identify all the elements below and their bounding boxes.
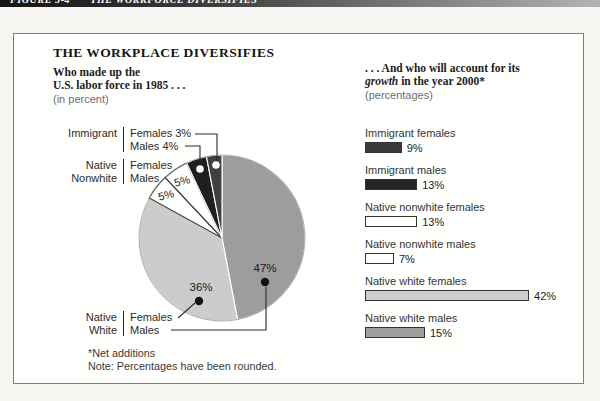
figure-banner-title: THE WORKFORCE DIVERSIFIES	[90, 0, 257, 5]
pie-group-name: Native White	[57, 311, 123, 336]
bar-row: Native white females42%	[365, 275, 580, 301]
pie-row-immigrant-females: Females 3%	[130, 127, 191, 140]
pie-label-group-immigrant: Immigrant Females 3% Males 4%	[57, 127, 191, 152]
figure-banner: FIGURE 5-4THE WORKFORCE DIVERSIFIES	[0, 0, 600, 7]
pie-row-nonwhite-males: Males	[130, 172, 172, 185]
bar-row: Native nonwhite males7%	[365, 238, 580, 264]
figure-footnotes: *Net additions Note: Percentages have be…	[88, 347, 276, 372]
figure-banner-text: FIGURE 5-4THE WORKFORCE DIVERSIFIES	[10, 0, 257, 7]
bar-header-line2: growth in the year 2000*	[365, 75, 520, 88]
pie-header-line2: U.S. labor force in 1985 . . .	[53, 79, 185, 92]
bar-value: 13%	[422, 216, 444, 228]
bar-value: 42%	[534, 290, 556, 302]
pie-group-rows: Females Males	[123, 311, 172, 336]
pie-group-rows: Females 3% Males 4%	[123, 127, 191, 152]
pie-value-native-white-males: 47%	[253, 262, 276, 274]
bar-line: 7%	[365, 253, 580, 264]
figure-title: THE WORKPLACE DIVERSIFIES	[53, 45, 274, 61]
bar-line: 9%	[365, 142, 580, 153]
pie-group-name-line1: Native	[57, 159, 117, 172]
bar-header-growth-italic: growth	[365, 75, 398, 87]
bar	[365, 253, 394, 264]
pie-label-group-native-nonwhite: Native Nonwhite Females Males	[57, 159, 172, 184]
pie-row-nonwhite-females: Females	[130, 159, 172, 172]
bar-line: 13%	[365, 179, 580, 190]
bar-label: Native nonwhite males	[365, 238, 580, 251]
bar-header-line2-rest: in the year 2000*	[398, 75, 485, 87]
pie-row-white-females: Females	[130, 311, 172, 324]
bar-chart: Immigrant females9%Immigrant males13%Nat…	[365, 127, 580, 349]
bar-label: Immigrant females	[365, 127, 580, 140]
bar-row: Immigrant males13%	[365, 164, 580, 190]
bar	[365, 290, 529, 301]
bar-label: Immigrant males	[365, 164, 580, 177]
pie-group-name: Immigrant	[57, 127, 123, 152]
dot-immigrant-females	[212, 161, 220, 169]
pie-group-name-line2: Nonwhite	[57, 172, 117, 185]
bar-line: 13%	[365, 216, 580, 227]
pie-row-white-males: Males	[130, 324, 172, 337]
pie-group-name-line1: Native	[57, 311, 117, 324]
bar-value: 13%	[422, 179, 444, 191]
pie-label-group-native-white: Native White Females Males	[57, 311, 172, 336]
footnote-net-additions: *Net additions	[88, 347, 276, 360]
bar-value: 15%	[430, 327, 452, 339]
pie-header-unit: (in percent)	[53, 93, 185, 106]
dot-native-white-females	[195, 297, 203, 305]
bar-label: Native white females	[365, 275, 580, 288]
dot-native-white-males	[261, 278, 269, 286]
bar	[365, 216, 417, 227]
pie-group-name-line2: White	[57, 324, 117, 337]
pie-header-line1: Who made up the	[53, 66, 185, 79]
bar-row: Native white males15%	[365, 312, 580, 338]
pie-value-native-white-females: 36%	[189, 281, 212, 293]
bar	[365, 327, 425, 338]
pie-chart-header: Who made up the U.S. labor force in 1985…	[53, 66, 185, 106]
bar-header-line1: . . . And who will account for its	[365, 62, 520, 75]
pie-group-name: Native Nonwhite	[57, 159, 123, 184]
bar-value: 7%	[399, 253, 415, 265]
bar-row: Immigrant females9%	[365, 127, 580, 153]
bar-header-unit: (percentages)	[365, 89, 520, 102]
footnote-rounded: Note: Percentages have been rounded.	[88, 360, 276, 373]
pie-row-immigrant-males: Males 4%	[130, 140, 191, 153]
bar	[365, 179, 417, 190]
pie-group-rows: Females Males	[123, 159, 172, 184]
bar-label: Native nonwhite females	[365, 201, 580, 214]
figure-page: { "banner": { "label": "FIGURE 5-4", "ti…	[0, 0, 600, 401]
bar-chart-header: . . . And who will account for its growt…	[365, 62, 520, 102]
dot-immigrant-males	[196, 165, 204, 173]
bar-value: 9%	[407, 142, 423, 154]
bar	[365, 142, 402, 153]
bar-line: 42%	[365, 290, 580, 301]
bar-label: Native white males	[365, 312, 580, 325]
bar-row: Native nonwhite females13%	[365, 201, 580, 227]
bar-line: 15%	[365, 327, 580, 338]
figure-number: FIGURE 5-4	[10, 0, 70, 5]
pie-slice-native-white-males	[222, 155, 305, 320]
